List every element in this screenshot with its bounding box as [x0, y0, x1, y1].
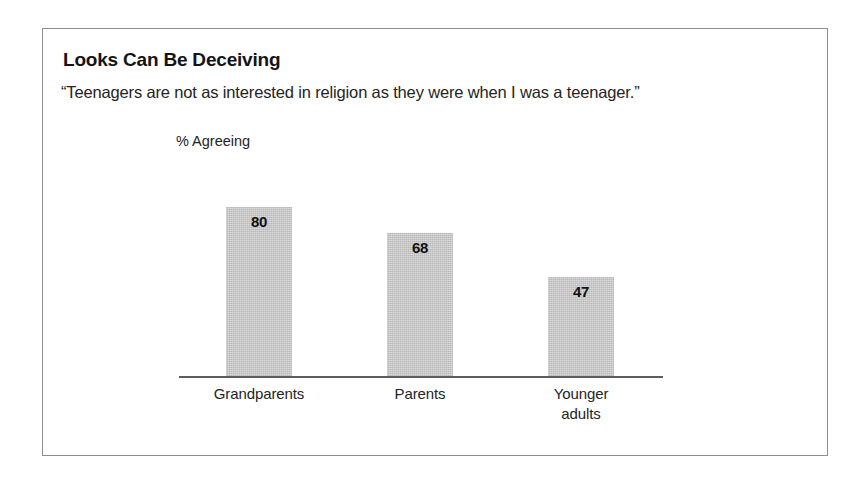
x-tick-label-younger-adults: Younger adults: [501, 384, 661, 424]
x-axis-baseline: [179, 376, 663, 378]
bar-value-label: 80: [226, 213, 292, 230]
bar-parents[interactable]: 68: [387, 233, 453, 377]
x-tick-label-line: Parents: [340, 384, 500, 404]
plot-area: 80 68 47 Grandparents Parents: [43, 29, 829, 457]
x-tick-label-line: Grandparents: [179, 384, 339, 404]
bar-group: 80 68 47: [179, 165, 661, 377]
bar-slot-grandparents: 80: [179, 165, 339, 377]
x-tick-label-parents: Parents: [340, 384, 500, 424]
bar-value-label: 47: [548, 283, 614, 300]
bar-slot-parents: 68: [340, 165, 500, 377]
bar-slot-younger-adults: 47: [501, 165, 661, 377]
x-axis-tick-labels: Grandparents Parents Younger adults: [179, 384, 661, 424]
x-tick-label-line: Younger: [501, 384, 661, 404]
figure-frame: Looks Can Be Deceiving “Teenagers are no…: [42, 28, 828, 456]
bar-value-label: 68: [387, 239, 453, 256]
x-tick-label-grandparents: Grandparents: [179, 384, 339, 424]
x-tick-label-line: adults: [501, 404, 661, 424]
bar-grandparents[interactable]: 80: [226, 207, 292, 377]
bar-younger-adults[interactable]: 47: [548, 277, 614, 377]
